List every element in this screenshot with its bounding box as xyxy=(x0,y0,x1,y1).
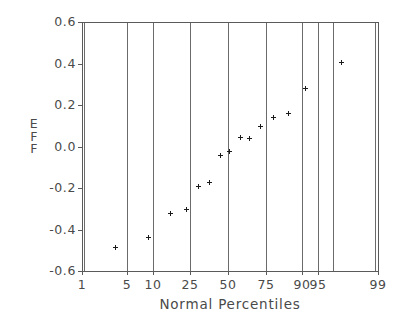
y-tick-label-1: -0.4 xyxy=(30,224,76,237)
y-tick-label-3: 0.0 xyxy=(30,141,76,154)
x-tick-label-1: 5 xyxy=(115,279,139,292)
y-tick-label-5: 0.4 xyxy=(30,58,76,71)
x-tick-label-2: 10 xyxy=(141,279,165,292)
x-tick-label-3: 25 xyxy=(178,279,202,292)
y-tick-label-0: -0.6 xyxy=(30,265,76,278)
normal-probability-plot: E F F Normal Percentiles -0.6-0.4-0.20.0… xyxy=(0,0,403,319)
plot-frame xyxy=(83,23,379,272)
gridlines xyxy=(85,22,376,271)
y-tick-label-2: -0.2 xyxy=(30,182,76,195)
x-tick-label-4: 50 xyxy=(216,279,240,292)
x-tick-label-8: 99 xyxy=(366,279,390,292)
x-tick-label-5: 75 xyxy=(254,279,278,292)
x-tick-label-7: 95 xyxy=(306,279,330,292)
frame-rect xyxy=(83,23,379,272)
x-axis-title: Normal Percentiles xyxy=(82,296,378,312)
y-tick-label-4: 0.2 xyxy=(30,99,76,112)
y-tick-label-6: 0.6 xyxy=(30,16,76,29)
x-tick-label-0: 1 xyxy=(70,279,94,292)
